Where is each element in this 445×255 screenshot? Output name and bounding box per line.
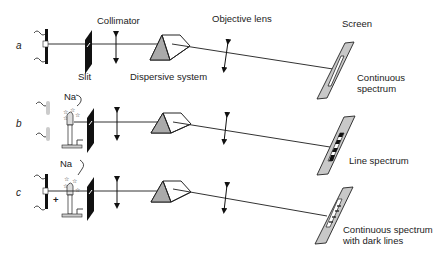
result-label-c-2: with dark lines [342,235,403,246]
screen-label: Screen [342,18,372,29]
objective-lens-icon [224,42,228,70]
result-label-a-2: spectrum [357,83,396,94]
svg-text:☆: ☆ [75,112,80,118]
prism-icon [150,35,190,60]
lamp-icon [34,174,48,210]
na-label-c: Na [60,158,73,169]
result-label-b: Line spectrum [349,155,409,166]
result-label-a-1: Continuous [357,72,405,83]
slit-icon [87,177,94,221]
na-label-b: Na [64,91,77,102]
svg-text:☆: ☆ [75,187,80,193]
row-a: a Continuous spectrum [16,29,405,99]
plus-sign: + [53,194,59,205]
svg-text:☆: ☆ [72,178,77,184]
lamp-icon [34,29,48,64]
result-label-c-1: Continuous spectrum [343,224,433,235]
row-label-b: b [16,118,22,129]
objective-lens-label: Objective lens [212,13,272,24]
objective-lens-icon [224,115,227,142]
row-label-c: c [16,187,21,198]
slit-icon [87,108,94,153]
row-b: b Na ☆ ☆ ☆ ☆ [16,91,409,175]
spectroscope-diagram: Collimator Objective lens Screen Slit Di… [0,0,445,255]
slit-icon [85,30,92,74]
svg-text:☆: ☆ [64,176,69,182]
dispersive-system-label: Dispersive system [130,71,207,82]
prism-icon [151,113,191,133]
sodium-burner-icon: ☆ ☆ ☆ ☆ [62,176,83,217]
screen-continuous-spectrum [317,42,354,99]
lamp-off-icon [36,101,50,141]
collimator-label: Collimator [97,15,140,26]
row-label-a: a [16,40,22,51]
row-c: c + Na ☆ ☆ ☆ ☆ [16,158,433,246]
sodium-burner-icon: ☆ ☆ ☆ ☆ [62,107,83,148]
slit-label: Slit [78,71,92,82]
